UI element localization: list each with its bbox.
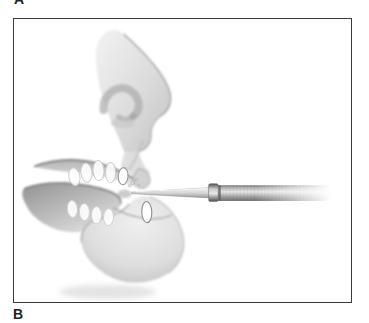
handle-fadeout [255,178,351,209]
panel-label-a: A [14,0,25,6]
instrument-ferrule [209,184,219,202]
panel-label-b: B [13,307,24,321]
figure-frame [13,18,352,303]
lower-incisor [141,201,152,223]
figure-page: A [0,0,369,323]
medical-illustration [14,19,351,302]
under-chin-shadow [59,285,156,299]
